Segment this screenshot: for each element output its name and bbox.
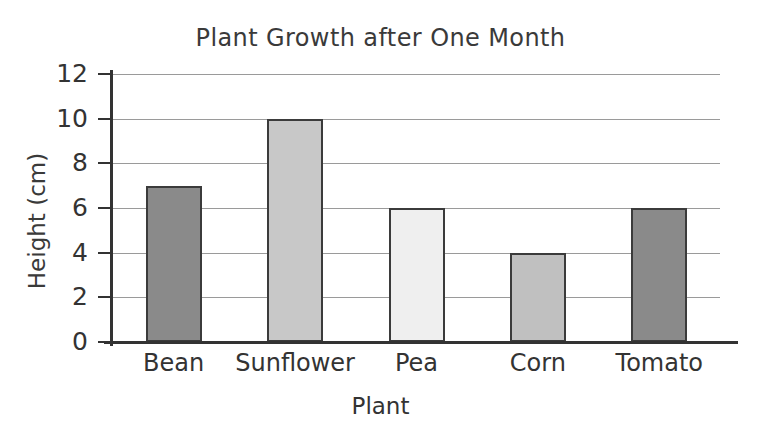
y-tick-label-2: 2 bbox=[42, 284, 88, 309]
y-tick-mark-12 bbox=[98, 73, 111, 75]
y-tick-label-12: 12 bbox=[42, 61, 88, 86]
bar-sunflower bbox=[267, 119, 323, 342]
chart-title: Plant Growth after One Month bbox=[0, 24, 761, 52]
y-tick-mark-0 bbox=[98, 341, 111, 343]
x-tick-label-sunflower: Sunflower bbox=[234, 349, 355, 377]
y-tick-mark-8 bbox=[98, 162, 111, 164]
bar-bean bbox=[146, 186, 202, 342]
bar-corn bbox=[510, 253, 566, 342]
gridline-8 bbox=[113, 163, 720, 164]
gridline-12 bbox=[113, 74, 720, 75]
plot-area bbox=[113, 74, 720, 342]
x-axis-line bbox=[104, 341, 738, 344]
bar-pea bbox=[389, 208, 445, 342]
x-tick-label-tomato: Tomato bbox=[599, 349, 720, 377]
gridline-10 bbox=[113, 119, 720, 120]
y-tick-label-6: 6 bbox=[42, 195, 88, 220]
bar-chart: Plant Growth after One Month Height (cm)… bbox=[0, 0, 761, 448]
y-tick-mark-2 bbox=[98, 296, 111, 298]
y-tick-label-10: 10 bbox=[42, 106, 88, 131]
y-tick-label-8: 8 bbox=[42, 150, 88, 175]
y-tick-label-0: 0 bbox=[42, 329, 88, 354]
y-tick-mark-4 bbox=[98, 252, 111, 254]
bar-tomato bbox=[631, 208, 687, 342]
x-tick-label-corn: Corn bbox=[477, 349, 598, 377]
x-tick-label-pea: Pea bbox=[356, 349, 477, 377]
y-tick-label-4: 4 bbox=[42, 240, 88, 265]
y-tick-mark-10 bbox=[98, 118, 111, 120]
x-tick-label-bean: Bean bbox=[113, 349, 234, 377]
y-tick-mark-6 bbox=[98, 207, 111, 209]
x-axis-label: Plant bbox=[0, 393, 761, 419]
